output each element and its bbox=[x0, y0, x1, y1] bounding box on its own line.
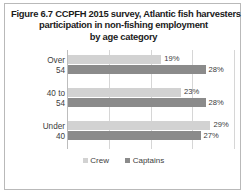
chart-legend: Crew Captains bbox=[5, 156, 242, 165]
bar-group-over-54: 19% 28% bbox=[67, 54, 234, 79]
bar-value-label-crew: 19% bbox=[164, 54, 179, 63]
legend-label-captains: Captains bbox=[133, 156, 165, 165]
bar-value-label-captains: 27% bbox=[204, 131, 219, 140]
bar-group-under-40: 29% 27% bbox=[67, 120, 234, 145]
bar-value-label-captains: 28% bbox=[209, 65, 224, 74]
legend-swatch-icon bbox=[125, 158, 130, 163]
legend-item-captains[interactable]: Captains bbox=[125, 156, 164, 165]
category-label-over-54: Over 54 bbox=[11, 56, 65, 75]
category-label-line-2: 54 bbox=[11, 99, 65, 109]
category-label-under-40: Under 40 bbox=[11, 122, 65, 141]
bar-crew bbox=[68, 121, 210, 130]
chart-title-line-1: Figure 6.7 CCPFH 2015 survey, Atlantic f… bbox=[11, 8, 236, 19]
bar-captains bbox=[68, 98, 206, 107]
bar-value-label-crew: 29% bbox=[213, 120, 228, 129]
chart-title: Figure 6.7 CCPFH 2015 survey, Atlantic f… bbox=[11, 8, 236, 42]
bar-captains bbox=[68, 65, 206, 74]
category-label-line-2: 40 bbox=[11, 132, 65, 142]
bar-value-label-captains: 28% bbox=[209, 98, 224, 107]
gridline bbox=[234, 50, 235, 149]
bar-captains bbox=[68, 131, 201, 140]
bar-crew bbox=[68, 88, 181, 97]
bar-group-40-to-54: 23% 28% bbox=[67, 87, 234, 112]
category-label-line-1: Under bbox=[11, 122, 65, 132]
category-label-line-1: Over bbox=[11, 56, 65, 66]
chart-title-line-3: by age category bbox=[11, 31, 236, 42]
category-label-40-to-54: 40 to 54 bbox=[11, 89, 65, 108]
legend-label-crew: Crew bbox=[90, 156, 109, 165]
chart-title-line-2: participation in non-fishing employment bbox=[11, 19, 236, 30]
category-axis: Over 54 40 to 54 Under 40 bbox=[11, 50, 65, 149]
figure-container: Figure 6.7 CCPFH 2015 survey, Atlantic f… bbox=[4, 3, 241, 190]
legend-item-crew[interactable]: Crew bbox=[83, 156, 109, 165]
plot-area: 19% 28% 23% 28% 29% 27% bbox=[67, 50, 234, 149]
bar-crew bbox=[68, 55, 161, 64]
legend-swatch-icon bbox=[83, 158, 88, 163]
category-label-line-1: 40 to bbox=[11, 89, 65, 99]
bar-value-label-crew: 23% bbox=[184, 87, 199, 96]
category-label-line-2: 54 bbox=[11, 66, 65, 76]
